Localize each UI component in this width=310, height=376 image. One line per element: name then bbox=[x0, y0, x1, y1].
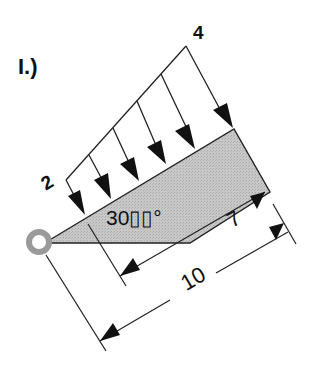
beam-diagram: I.) 2 4 30▯▯° 7 10 bbox=[0, 0, 310, 376]
pivot-support bbox=[29, 232, 49, 252]
part-label: I.) bbox=[18, 54, 38, 80]
angle-label: 30▯▯° bbox=[106, 206, 162, 230]
load-right-value: 4 bbox=[193, 22, 204, 44]
